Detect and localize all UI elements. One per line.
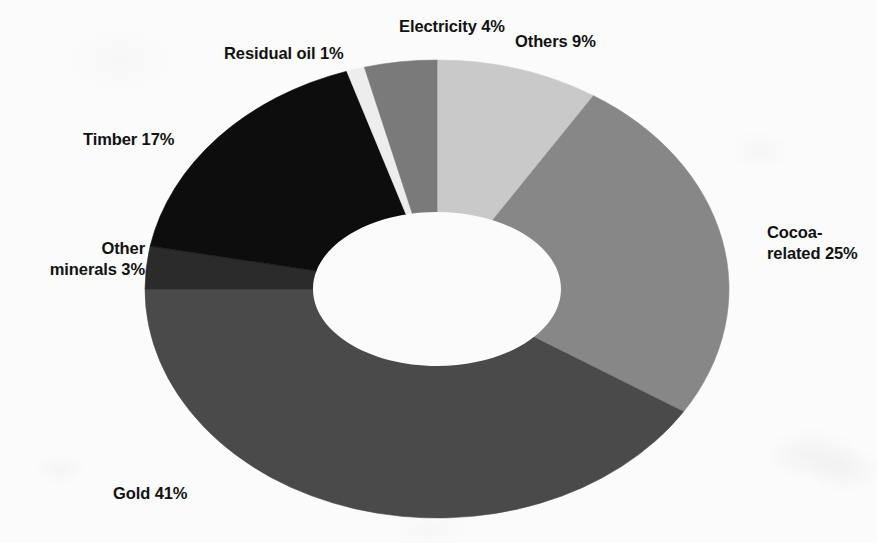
slice-label-cocoa-related-line2: related 25% bbox=[767, 244, 858, 262]
chart-title bbox=[0, 0, 877, 1]
slice-label-electricity: Electricity 4% bbox=[399, 16, 505, 37]
slice-label-other-minerals-line2: minerals 3% bbox=[50, 260, 145, 278]
slice-label-gold: Gold 41% bbox=[113, 483, 187, 504]
donut-slices bbox=[145, 60, 729, 518]
slice-label-other-minerals: Other minerals 3% bbox=[35, 238, 145, 280]
slice-label-cocoa-related-line1: Cocoa- bbox=[767, 223, 822, 241]
slice-label-others: Others 9% bbox=[515, 31, 596, 52]
slice-label-timber: Timber 17% bbox=[83, 129, 174, 150]
slice-label-other-minerals-line1: Other bbox=[101, 239, 145, 257]
slice-label-cocoa-related: Cocoa- related 25% bbox=[767, 222, 871, 264]
slice-label-residual-oil: Residual oil 1% bbox=[224, 43, 344, 64]
